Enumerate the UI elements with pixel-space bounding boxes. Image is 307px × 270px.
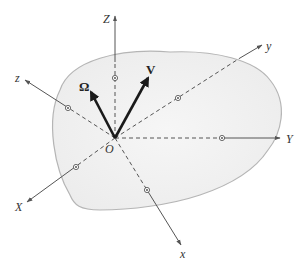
label-velocity: V <box>146 62 156 77</box>
diagram-canvas: Z z y Y X x O Ω V <box>0 0 307 270</box>
label-Z: Z <box>103 12 110 26</box>
label-y: y <box>265 39 272 53</box>
label-x: x <box>179 247 186 261</box>
label-z: z <box>14 71 20 85</box>
label-omega: Ω <box>79 79 89 94</box>
rigid-body-shape <box>53 51 282 210</box>
label-Y: Y <box>286 132 294 146</box>
label-origin: O <box>105 142 114 156</box>
label-X: X <box>14 200 23 214</box>
axis-y <box>240 45 262 58</box>
rigid-body-diagram: Z z y Y X x O Ω V <box>0 0 307 270</box>
